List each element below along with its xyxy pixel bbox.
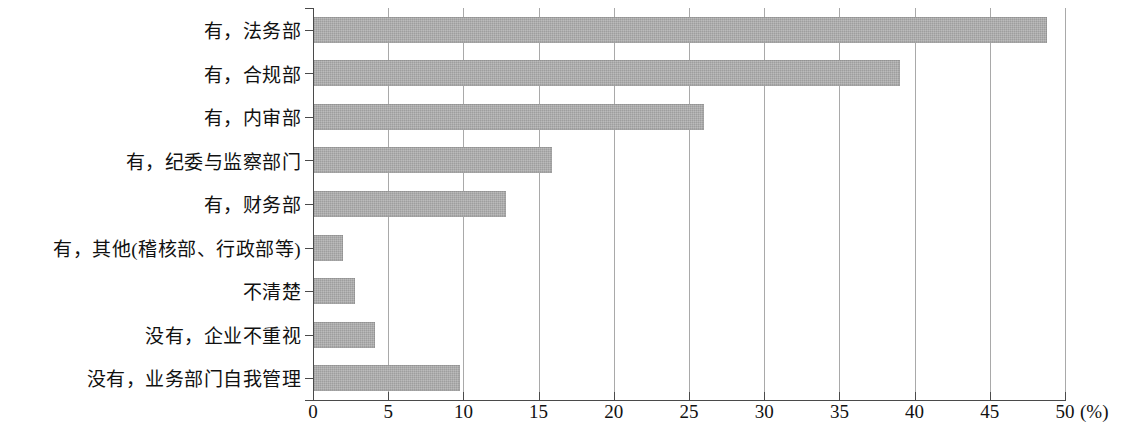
category-label: 没有，业务部门自我管理 [87, 358, 302, 401]
x-axis-tick-label: 40 [905, 401, 924, 423]
y-axis-tick [305, 117, 313, 118]
category-label: 不清楚 [243, 271, 302, 314]
category-label: 有，内审部 [204, 97, 302, 140]
category-label: 有，纪委与监察部门 [126, 141, 302, 184]
y-axis-tick [305, 30, 313, 31]
bar [313, 104, 704, 130]
x-axis-tick [388, 392, 389, 400]
x-axis-tick-label: 10 [454, 401, 473, 423]
x-axis-tick [990, 392, 991, 400]
y-axis-tick [305, 73, 313, 74]
y-axis-tick [305, 160, 313, 161]
bar [313, 191, 506, 217]
bar [313, 17, 1047, 43]
x-axis-tick [1065, 392, 1066, 400]
bar [313, 147, 552, 173]
plot-area [313, 8, 1065, 400]
x-axis-tick [764, 392, 765, 400]
x-axis-tick [689, 392, 690, 400]
x-axis-unit-label: (%) [1080, 401, 1108, 423]
x-axis-tick-label: 20 [604, 401, 623, 423]
bar [313, 235, 343, 261]
bar [313, 365, 460, 391]
y-axis-line [313, 8, 314, 400]
bar [313, 60, 900, 86]
y-axis-tick [305, 8, 313, 9]
category-label: 有，合规部 [204, 54, 302, 97]
x-axis-tick-label: 5 [383, 401, 393, 423]
y-axis-tick [305, 378, 313, 379]
bar [313, 278, 355, 304]
y-axis-tick [305, 248, 313, 249]
x-axis-tick [915, 392, 916, 400]
category-label: 有，法务部 [204, 10, 302, 53]
category-axis-labels: 有，法务部有，合规部有，内审部有，纪委与监察部门有，财务部有，其他(稽核部、行政… [0, 10, 307, 400]
bar-chart: 有，法务部有，合规部有，内审部有，纪委与监察部门有，财务部有，其他(稽核部、行政… [0, 0, 1123, 423]
x-axis-tick-label: 15 [529, 401, 548, 423]
x-axis-tick [839, 392, 840, 400]
category-label: 没有，企业不重视 [145, 315, 301, 358]
gridline [1065, 8, 1066, 400]
y-axis-tick [305, 204, 313, 205]
x-axis-tick [463, 392, 464, 400]
x-axis-tick [313, 392, 314, 400]
x-axis-tick-label: 30 [755, 401, 774, 423]
y-axis-tick [305, 335, 313, 336]
x-axis-tick [614, 392, 615, 400]
x-axis-tick-label: 35 [830, 401, 849, 423]
y-axis-tick [305, 291, 313, 292]
gridline [915, 8, 916, 400]
x-axis-tick-label: 0 [308, 401, 318, 423]
gridline [990, 8, 991, 400]
x-axis-tick [539, 392, 540, 400]
x-axis-tick-label: 45 [980, 401, 999, 423]
category-label: 有，其他(稽核部、行政部等) [53, 228, 301, 271]
category-label: 有，财务部 [204, 184, 302, 227]
x-axis-tick-label: 25 [680, 401, 699, 423]
x-axis-tick-label: 50 [1056, 401, 1075, 423]
bar [313, 322, 375, 348]
